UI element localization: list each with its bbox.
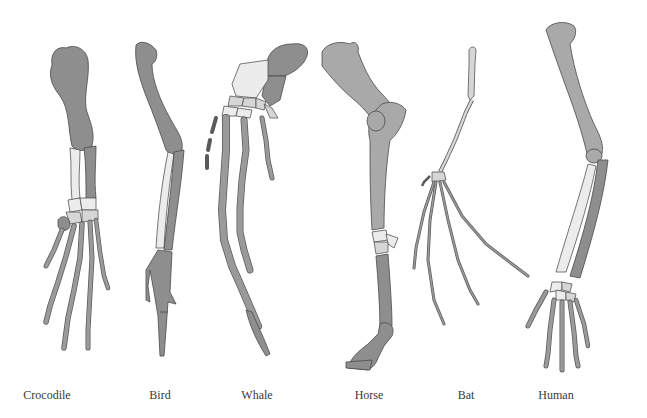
human-forelimb — [528, 23, 608, 370]
label-human: Human — [538, 388, 573, 403]
bird-forelimb — [136, 42, 184, 356]
label-bat: Bat — [458, 388, 475, 403]
label-whale: Whale — [241, 388, 272, 403]
forelimb-comparison-diagram — [0, 0, 647, 418]
bat-forelimb — [414, 47, 528, 324]
label-bird: Bird — [149, 388, 170, 403]
whale-forelimb — [207, 44, 308, 356]
label-horse: Horse — [355, 388, 384, 403]
horse-forelimb — [322, 42, 406, 370]
label-crocodile: Crocodile — [23, 388, 70, 403]
crocodile-forelimb — [46, 47, 108, 349]
